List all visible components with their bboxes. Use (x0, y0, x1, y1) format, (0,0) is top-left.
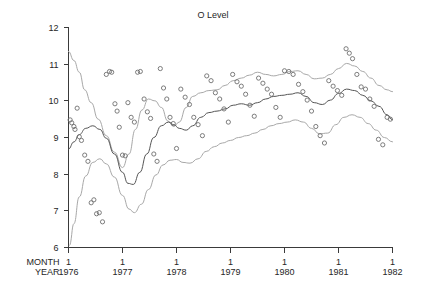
data-point (340, 93, 344, 97)
data-point (350, 57, 354, 61)
curve-lower-band (70, 115, 393, 246)
data-point (235, 80, 239, 84)
data-point (372, 104, 376, 108)
curves-group (69, 51, 393, 245)
data-point (359, 85, 363, 89)
data-point (314, 124, 318, 128)
data-point (196, 123, 200, 127)
data-point (239, 84, 243, 88)
data-point (291, 72, 295, 76)
data-point (347, 51, 351, 55)
data-point (274, 105, 278, 109)
y-axis-tick-label: 7 (53, 206, 58, 216)
data-point (335, 88, 339, 92)
y-axis-tick-label: 8 (53, 170, 58, 180)
data-point (174, 146, 178, 150)
o-level-scatter-chart: O Level 6789101112 119761197711978119791… (0, 0, 426, 289)
x-axis-row-names: MONTHYEAR (27, 257, 60, 277)
data-point (265, 87, 269, 91)
data-point (213, 91, 217, 95)
x-axis-tick-label: 1979 (220, 267, 240, 277)
data-point (278, 115, 282, 119)
x-axis-tick-label: 1978 (166, 267, 186, 277)
x-axis-tick-label: 1 (228, 257, 233, 267)
x-axis-tick-label: 1 (282, 257, 287, 267)
y-axis-tick-label: 12 (48, 23, 58, 33)
scatter-points-group (68, 47, 392, 224)
data-point (152, 152, 156, 156)
data-point (309, 109, 313, 113)
data-point (158, 66, 162, 70)
data-point (192, 115, 196, 119)
data-point (115, 109, 119, 113)
data-point (92, 198, 96, 202)
data-point (376, 137, 380, 141)
data-point (165, 97, 169, 101)
data-point (161, 86, 165, 90)
data-point (126, 101, 130, 105)
curve-upper-band (69, 51, 393, 167)
data-point (145, 110, 149, 114)
chart-title: O Level (197, 10, 228, 20)
data-point (282, 69, 286, 73)
data-point (209, 79, 213, 83)
data-point (296, 82, 300, 86)
x-axis-tick-label: 1 (336, 257, 341, 267)
x-axis-tick-label: 1 (66, 257, 71, 267)
data-point (200, 134, 204, 138)
data-point (183, 95, 187, 99)
data-point (83, 153, 87, 157)
x-axis-tick-label: 1982 (382, 267, 402, 277)
data-point (305, 98, 309, 102)
data-point (129, 115, 133, 119)
data-point (142, 97, 146, 101)
x-axis-tick-label: 1980 (274, 267, 294, 277)
data-point (113, 102, 117, 106)
x-axis-tick-label: 1 (120, 257, 125, 267)
x-axis-tick-label: 1981 (328, 267, 348, 277)
data-point (244, 92, 248, 96)
y-axis-tick-label: 10 (48, 96, 58, 106)
data-point (363, 87, 367, 91)
data-point (344, 47, 348, 51)
data-point (327, 79, 331, 83)
data-point (218, 97, 222, 101)
data-point (226, 120, 230, 124)
y-axis-tick-label: 9 (53, 133, 58, 143)
x-axis-row-name: YEAR (35, 267, 60, 277)
data-point (269, 92, 273, 96)
data-point (331, 84, 335, 88)
x-axis-tick-label: 1977 (112, 267, 132, 277)
chart-container: O Level 6789101112 119761197711978119791… (0, 0, 426, 289)
x-axis: 11976119771197811979119801198111982 (58, 248, 402, 278)
data-point (79, 138, 83, 142)
x-axis-row-name: MONTH (27, 257, 60, 267)
data-point (168, 115, 172, 119)
data-point (138, 69, 142, 73)
data-point (381, 143, 385, 147)
data-point (86, 159, 90, 163)
data-point (301, 90, 305, 94)
chart-title-group: O Level (197, 10, 228, 20)
data-point (100, 220, 104, 224)
data-point (256, 76, 260, 80)
data-point (205, 74, 209, 78)
data-point (75, 106, 79, 110)
x-axis-tick-label: 1 (174, 257, 179, 267)
y-axis-tick-label: 6 (53, 243, 58, 253)
data-point (148, 116, 152, 120)
x-axis-tick-label: 1 (390, 257, 395, 267)
x-axis-tick-label: 1976 (58, 267, 78, 277)
data-point (252, 114, 256, 118)
data-point (231, 72, 235, 76)
data-point (355, 72, 359, 76)
data-point (261, 81, 265, 85)
data-point (155, 159, 159, 163)
data-point (322, 141, 326, 145)
data-point (132, 120, 136, 124)
data-point (117, 125, 121, 129)
y-axis-tick-label: 11 (49, 60, 58, 70)
data-point (123, 154, 127, 158)
y-axis: 6789101112 (48, 23, 68, 253)
data-point (179, 87, 183, 91)
